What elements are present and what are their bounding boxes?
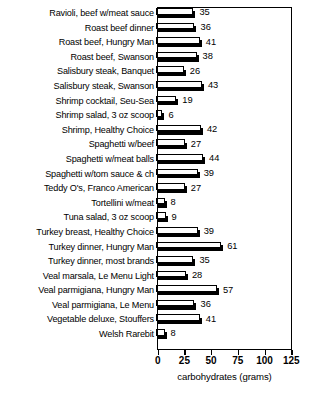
category-label: Teddy O's, Franco American — [0, 183, 156, 194]
category-label: Shrimp, Healthy Choice — [0, 124, 156, 135]
bar-cell: 35 — [156, 7, 315, 22]
category-label: Turkey dinner, most brands — [0, 256, 156, 267]
bar-cell: 9 — [156, 211, 315, 226]
bar — [156, 169, 198, 176]
bar-value-label: 19 — [182, 95, 192, 106]
x-axis-title: carbohydrates (grams) — [177, 371, 271, 382]
chart-row: Roast beef dinner36 — [0, 22, 315, 37]
category-label: Shrimp cocktail, Seu-Sea — [0, 95, 156, 106]
bar-cell: 19 — [156, 95, 315, 110]
bar-value-label: 42 — [207, 124, 217, 135]
category-label: Roast beef, Hungry Man — [0, 37, 156, 48]
bar-value-label: 28 — [192, 270, 202, 281]
bar — [156, 81, 202, 88]
bar-value-label: 36 — [200, 299, 210, 310]
bar-value-label: 35 — [199, 255, 209, 266]
bar-cell: 35 — [156, 255, 315, 270]
bar-cell: 8 — [156, 197, 315, 212]
bar-cell: 38 — [156, 51, 315, 66]
bar-value-label: 39 — [204, 168, 214, 179]
bar-value-label: 35 — [199, 7, 209, 18]
chart-rows: Ravioli, beef w/meat sauce35Roast beef d… — [0, 7, 315, 343]
chart-row: Salisbury steak, Swanson43 — [0, 80, 315, 95]
bar — [156, 66, 184, 73]
chart-row: Veal marsala, Le Menu Light28 — [0, 270, 315, 285]
chart-row: Spaghetti w/tom sauce & ch39 — [0, 168, 315, 183]
chart-row: Teddy O's, Franco American27 — [0, 182, 315, 197]
category-label: Tuna salad, 3 oz scoop — [0, 212, 156, 223]
bar-value-label: 41 — [206, 37, 216, 48]
bar-value-label: 6 — [168, 110, 173, 121]
bar-value-label: 44 — [209, 153, 219, 164]
bar — [156, 8, 193, 15]
category-label: Veal parmigiana, Le Menu — [0, 299, 156, 310]
chart-row: Salisbury steak, Banquet26 — [0, 65, 315, 80]
bar-value-label: 36 — [200, 22, 210, 33]
bar — [156, 314, 200, 321]
category-label: Tortellini w/meat — [0, 197, 156, 208]
x-tick-label: 25 — [179, 355, 190, 367]
bar-cell: 39 — [156, 168, 315, 183]
bar-cell: 61 — [156, 241, 315, 256]
chart-row: Ravioli, beef w/meat sauce35 — [0, 7, 315, 22]
bar-cell: 6 — [156, 109, 315, 124]
bar-value-label: 8 — [171, 197, 176, 208]
bar-value-label: 57 — [223, 285, 233, 296]
category-label: Spaghetti w/beef — [0, 139, 156, 150]
bar — [156, 183, 185, 190]
bar — [156, 52, 197, 59]
bar-value-label: 27 — [191, 183, 201, 194]
bar-value-label: 41 — [206, 314, 216, 325]
category-label: Shrimp salad, 3 oz scoop — [0, 110, 156, 121]
category-label: Roast beef dinner — [0, 22, 156, 33]
bar — [156, 227, 198, 234]
x-tick-label: 100 — [256, 355, 273, 367]
bar — [156, 329, 165, 336]
bar — [156, 139, 185, 146]
chart-row: Shrimp, Healthy Choice42 — [0, 124, 315, 139]
bar — [156, 271, 186, 278]
bar-value-label: 43 — [208, 80, 218, 91]
category-label: Turkey dinner, Hungry Man — [0, 241, 156, 252]
bar — [156, 212, 166, 219]
x-tick-label: 75 — [232, 355, 243, 367]
x-tick-label: 0 — [155, 355, 161, 367]
bar-value-label: 38 — [203, 51, 213, 62]
bar — [156, 110, 162, 117]
category-label: Vegetable deluxe, Stouffers — [0, 314, 156, 325]
chart-row: Spaghetti w/meat balls44 — [0, 153, 315, 168]
category-label: Salisbury steak, Banquet — [0, 66, 156, 77]
bar-cell: 44 — [156, 153, 315, 168]
chart-row: Roast beef, Hungry Man41 — [0, 36, 315, 51]
bar-value-label: 8 — [171, 328, 176, 339]
bar — [156, 23, 194, 30]
bar — [156, 198, 165, 205]
bar-value-label: 27 — [191, 139, 201, 150]
chart-row: Veal parmigiana, Le Menu36 — [0, 299, 315, 314]
bar — [156, 256, 193, 263]
chart-row: Tuna salad, 3 oz scoop9 — [0, 211, 315, 226]
bar-cell: 36 — [156, 299, 315, 314]
bar-value-label: 39 — [204, 226, 214, 237]
bar-cell: 41 — [156, 313, 315, 328]
chart-row: Roast beef, Swanson38 — [0, 51, 315, 66]
category-label: Spaghetti w/tom sauce & ch — [0, 168, 156, 179]
bar — [156, 96, 176, 103]
x-axis: carbohydrates (grams) 0255075100125 — [157, 350, 292, 397]
chart-row: Tortellini w/meat8 — [0, 197, 315, 212]
chart-row: Veal parmigiana, Hungry Man57 — [0, 284, 315, 299]
bar-cell: 27 — [156, 182, 315, 197]
x-tick-label: 50 — [206, 355, 217, 367]
bar-cell: 36 — [156, 22, 315, 37]
bar — [156, 37, 200, 44]
category-label: Ravioli, beef w/meat sauce — [0, 8, 156, 19]
category-label: Veal marsala, Le Menu Light — [0, 270, 156, 281]
bar-cell: 26 — [156, 65, 315, 80]
bar — [156, 285, 217, 292]
bar-chart: Ravioli, beef w/meat sauce35Roast beef d… — [0, 0, 315, 397]
bar-cell: 42 — [156, 124, 315, 139]
bar-value-label: 9 — [172, 212, 177, 223]
bar — [156, 154, 203, 161]
bar-cell: 28 — [156, 270, 315, 285]
category-label: Roast beef, Swanson — [0, 51, 156, 62]
